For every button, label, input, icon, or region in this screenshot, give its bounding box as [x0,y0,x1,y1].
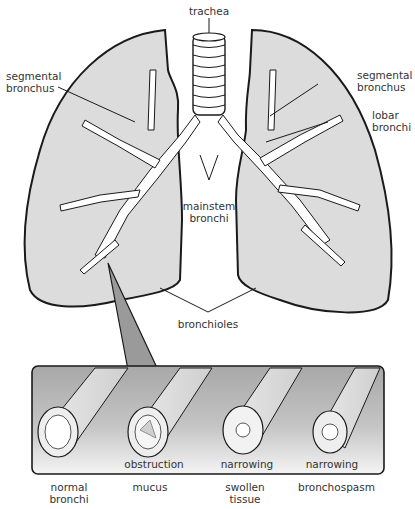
narrowing-swollen-label: narrowing [220,458,274,470]
obstruction-label: obstruction [124,458,184,470]
segmental-bronchus-left-label: segmental bronchus [6,70,61,94]
mainstem-bronchi-label: mainstem bronchi [180,200,238,224]
trachea-label: trachea [186,5,232,17]
caption-normal-bronchi: normal bronchi [42,481,96,505]
lung-illustration [0,0,415,509]
lobar-bronchi-label: lobar bronchi [372,109,411,133]
bronchioles-label: bronchioles [175,318,241,330]
caption-swollen-tissue: swollen tissue [222,481,268,505]
narrowing-bronchospasm-label: narrowing [305,458,359,470]
segmental-bronchus-right-label: segmental bronchus [357,69,412,93]
caption-mucus: mucus [130,481,170,493]
trachea [193,18,225,115]
lung-diagram: trachea segmental bronchus segmental bro… [0,0,415,509]
caption-bronchospasm: bronchospasm [298,481,374,493]
